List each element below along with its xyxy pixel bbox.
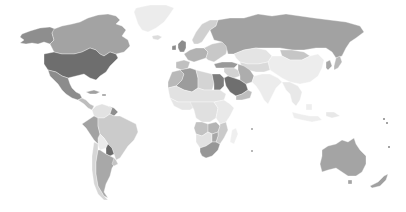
map-canvas: Alaska (USA) Canada Greenland United Sta… — [0, 0, 406, 212]
world-choropleth-map: Alaska (USA) Canada Greenland United Sta… — [0, 0, 406, 212]
region-australia-tasmania[interactable]: Australia — [348, 180, 352, 184]
